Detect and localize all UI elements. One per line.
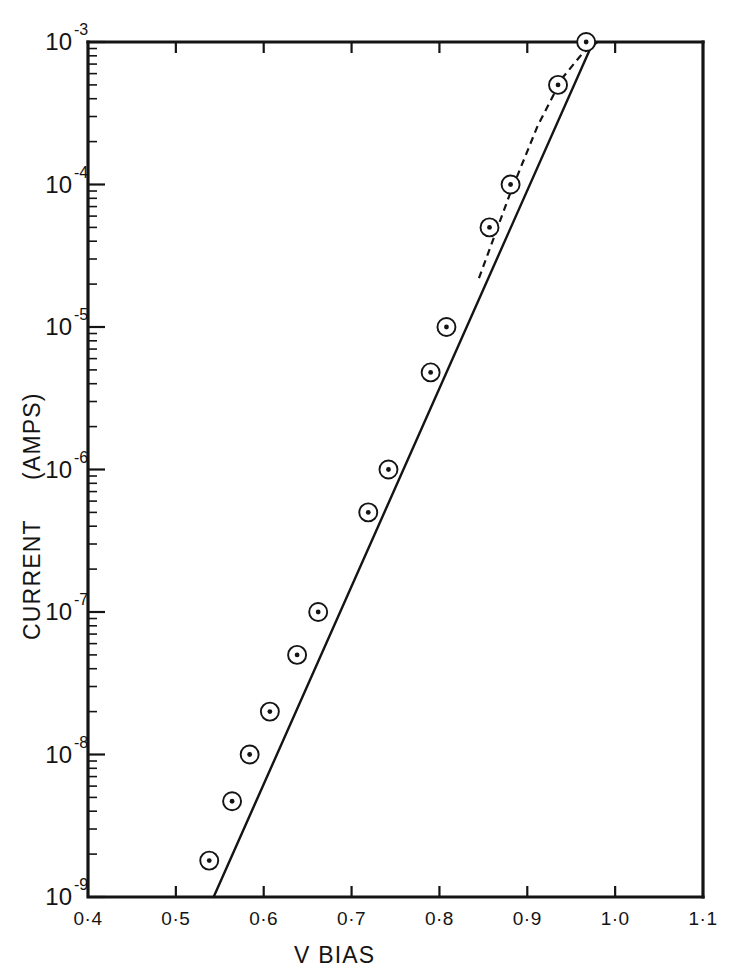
marker-center-dot-icon	[556, 82, 561, 87]
marker-center-dot-icon	[295, 652, 300, 657]
y-tick-label-exponent-6: -3	[74, 21, 88, 38]
x-tick-label-7: 1·1	[689, 908, 718, 929]
figure-container: 0·40·50·60·70·80·91·01·1 10-910-810-710-…	[0, 0, 733, 980]
y-tick-label-exponent-2: -7	[74, 591, 88, 608]
data-point	[422, 363, 440, 381]
data-point	[200, 852, 218, 870]
marker-center-dot-icon	[207, 858, 212, 863]
x-tick-label-3: 0·7	[337, 908, 366, 929]
y-axis-title-current: CURRENT	[19, 519, 45, 640]
data-point	[437, 318, 455, 336]
data-point	[359, 503, 377, 521]
y-tick-label-mantissa-1: 10	[45, 741, 72, 768]
x-axis-title: V BIAS	[294, 942, 375, 968]
marker-center-dot-icon	[386, 467, 391, 472]
data-point	[261, 703, 279, 721]
marker-center-dot-icon	[366, 510, 371, 515]
marker-center-dot-icon	[316, 610, 321, 615]
y-tick-label-mantissa-4: 10	[45, 313, 72, 340]
y-tick-label-exponent-0: -9	[74, 876, 88, 893]
data-point	[241, 746, 259, 764]
data-point	[379, 461, 397, 479]
y-tick-label-mantissa-5: 10	[45, 171, 72, 198]
y-tick-label-exponent-1: -8	[74, 734, 88, 751]
y-tick-label-mantissa-0: 10	[45, 883, 72, 910]
x-tick-label-1: 0·5	[161, 908, 190, 929]
y-tick-label-exponent-3: -6	[74, 449, 88, 466]
marker-center-dot-icon	[444, 325, 449, 330]
marker-center-dot-icon	[230, 799, 235, 804]
data-point	[288, 646, 306, 664]
x-tick-label-6: 1·0	[601, 908, 630, 929]
y-tick-label-exponent-4: -5	[74, 306, 88, 323]
y-tick-label-exponent-5: -4	[74, 164, 88, 181]
marker-center-dot-icon	[267, 709, 272, 714]
current-vs-bias-chart: 0·40·50·60·70·80·91·01·1 10-910-810-710-…	[0, 0, 733, 980]
x-tick-label-5: 0·9	[513, 908, 542, 929]
marker-center-dot-icon	[247, 752, 252, 757]
marker-center-dot-icon	[428, 370, 433, 375]
y-tick-label-mantissa-6: 10	[45, 28, 72, 55]
marker-center-dot-icon	[508, 182, 513, 187]
data-point	[502, 176, 520, 194]
chart-background	[0, 0, 733, 980]
x-tick-label-4: 0·8	[425, 908, 454, 929]
y-tick-label-mantissa-3: 10	[45, 456, 72, 483]
x-tick-label-0: 0·4	[74, 908, 103, 929]
marker-center-dot-icon	[584, 40, 589, 45]
data-point	[577, 33, 595, 51]
y-tick-label-mantissa-2: 10	[45, 598, 72, 625]
data-point	[309, 603, 327, 621]
y-axis-title-units: (AMPS)	[19, 392, 45, 480]
data-point	[223, 792, 241, 810]
marker-center-dot-icon	[487, 225, 492, 230]
x-tick-label-2: 0·6	[249, 908, 278, 929]
data-point	[481, 218, 499, 236]
x-axis-title-text: V BIAS	[294, 942, 375, 968]
data-point	[549, 76, 567, 94]
